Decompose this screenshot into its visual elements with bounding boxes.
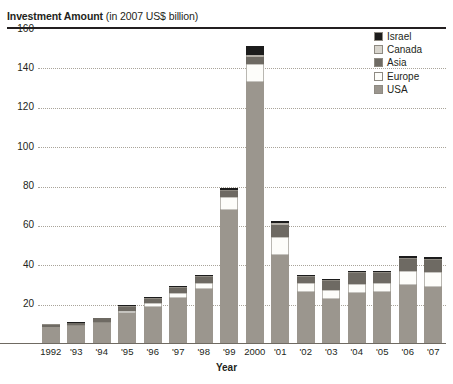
legend-label: Canada xyxy=(387,43,422,56)
legend-item-europe[interactable]: Europe xyxy=(374,70,422,83)
y-tick-120: 120 xyxy=(4,101,34,112)
bar-segment-usa xyxy=(297,292,315,344)
bar-segment-usa xyxy=(195,289,213,344)
legend-item-usa[interactable]: USA xyxy=(374,83,422,96)
table-row[interactable] xyxy=(118,305,136,344)
y-tick-140: 140 xyxy=(4,62,34,73)
x-tick-1997: '97 xyxy=(166,346,192,357)
bar-segment-asia xyxy=(373,273,391,283)
table-row[interactable] xyxy=(220,188,238,345)
bar-segment-usa xyxy=(169,298,187,344)
table-row[interactable] xyxy=(322,279,340,344)
y-tick-40: 40 xyxy=(4,259,34,270)
x-axis-labels: 1992'93'94'95'96'97'98'992000'01'02'03'0… xyxy=(38,346,446,362)
bar-segment-usa xyxy=(220,210,238,344)
bar-segment-asia xyxy=(424,260,442,272)
x-tick-2004: '04 xyxy=(344,346,370,357)
table-row[interactable] xyxy=(67,322,85,344)
legend-label: Asia xyxy=(387,56,406,69)
table-row[interactable] xyxy=(93,318,111,344)
bar-segment-usa xyxy=(271,255,289,344)
bar-segment-europe xyxy=(220,197,238,210)
bar-segment-europe xyxy=(373,283,391,292)
legend-label: USA xyxy=(387,83,408,96)
bar-segment-usa xyxy=(67,326,85,344)
bar-segment-europe xyxy=(271,237,289,256)
bar-segment-usa xyxy=(144,307,162,344)
x-tick-2006: '06 xyxy=(395,346,421,357)
bar-segment-europe xyxy=(348,284,366,293)
bar-segment-asia xyxy=(271,225,289,237)
legend-item-canada[interactable]: Canada xyxy=(374,43,422,56)
legend-swatch-icon-usa xyxy=(374,85,383,94)
y-tick-20: 20 xyxy=(4,298,34,309)
y-tick-100: 100 xyxy=(4,141,34,152)
bar-segment-asia xyxy=(348,273,366,284)
chart-container: Investment Amount (in 2007 US$ billion) … xyxy=(0,0,453,384)
bar-segment-europe xyxy=(297,283,315,292)
bar-segment-usa xyxy=(424,287,442,344)
legend-item-asia[interactable]: Asia xyxy=(374,56,422,69)
table-row[interactable] xyxy=(169,286,187,344)
x-tick-1994: '94 xyxy=(89,346,115,357)
table-row[interactable] xyxy=(399,256,417,344)
x-tick-1993: '93 xyxy=(64,346,90,357)
table-row[interactable] xyxy=(144,297,162,344)
y-tick-160: 160 xyxy=(4,23,34,34)
legend-swatch-icon-canada xyxy=(374,45,383,54)
legend-item-israel[interactable]: Israel xyxy=(374,30,422,43)
table-row[interactable] xyxy=(373,271,391,344)
x-tick-1995: '95 xyxy=(115,346,141,357)
legend-swatch-icon-europe xyxy=(374,72,383,81)
bar-segment-usa xyxy=(42,327,60,344)
legend-swatch-icon-asia xyxy=(374,58,383,67)
table-row[interactable] xyxy=(271,221,289,344)
y-tick-60: 60 xyxy=(4,219,34,230)
bar-segment-usa xyxy=(373,292,391,344)
x-tick-2005: '05 xyxy=(370,346,396,357)
x-tick-1999: '99 xyxy=(217,346,243,357)
chart-legend: IsraelCanadaAsiaEuropeUSA xyxy=(374,30,422,96)
table-row[interactable] xyxy=(424,257,442,344)
bar-segment-usa xyxy=(118,313,136,344)
table-row[interactable] xyxy=(297,275,315,344)
x-tick-1998: '98 xyxy=(191,346,217,357)
bar-segment-usa xyxy=(322,299,340,344)
bar-segment-europe xyxy=(246,64,264,82)
x-tick-2003: '03 xyxy=(319,346,345,357)
x-axis-title: Year xyxy=(0,362,453,373)
table-row[interactable] xyxy=(195,275,213,344)
bar-segment-europe xyxy=(322,290,340,299)
x-tick-1996: '96 xyxy=(140,346,166,357)
legend-label: Israel xyxy=(387,30,411,43)
chart-title-main: Investment Amount xyxy=(7,10,103,22)
bar-segment-asia xyxy=(322,281,340,290)
chart-title-units: (in 2007 US$ billion) xyxy=(106,10,198,22)
x-tick-2000: 2000 xyxy=(242,346,268,357)
legend-label: Europe xyxy=(387,70,419,83)
legend-swatch-icon-israel xyxy=(374,32,383,41)
x-axis-line xyxy=(0,343,446,344)
bar-segment-usa xyxy=(93,323,111,344)
table-row[interactable] xyxy=(348,271,366,344)
bar-segment-israel xyxy=(246,46,264,55)
table-row[interactable] xyxy=(42,324,60,344)
x-tick-2001: '01 xyxy=(268,346,294,357)
x-tick-2002: '02 xyxy=(293,346,319,357)
bar-segment-asia xyxy=(399,259,417,271)
bar-segment-asia xyxy=(246,57,264,65)
x-tick-1992: 1992 xyxy=(38,346,64,357)
chart-title: Investment Amount (in 2007 US$ billion) xyxy=(7,10,198,22)
bar-segment-usa xyxy=(399,285,417,344)
table-row[interactable] xyxy=(246,46,264,344)
bar-segment-europe xyxy=(399,271,417,285)
y-tick-80: 80 xyxy=(4,180,34,191)
bar-segment-usa xyxy=(348,293,366,344)
x-tick-2007: '07 xyxy=(421,346,447,357)
bar-segment-usa xyxy=(246,82,264,344)
bar-segment-europe xyxy=(424,272,442,287)
